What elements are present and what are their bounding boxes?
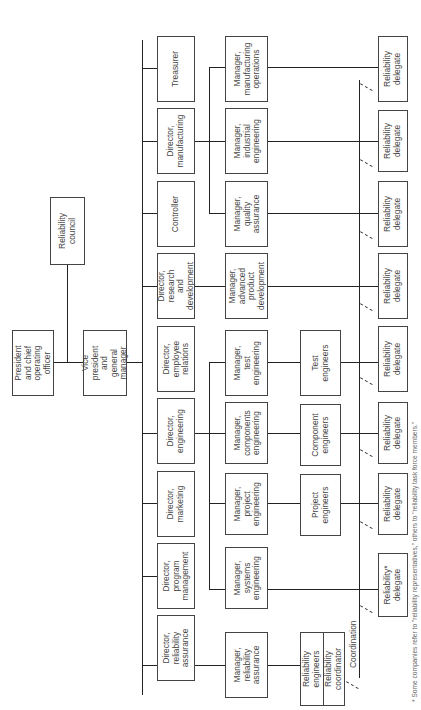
tick xyxy=(142,576,157,577)
reliability-unit-box: Reliability engineers Reliability coordi… xyxy=(300,632,345,706)
director-box-2: Controller xyxy=(157,181,195,247)
manager-label: Manager, components engineering xyxy=(232,410,261,456)
reliability-engineers-cell: Reliability engineers xyxy=(301,633,323,705)
reliability-coordinator-cell: Reliability coordinator xyxy=(323,633,345,705)
tick xyxy=(142,665,157,666)
dashed-link xyxy=(360,83,373,91)
delegate-label: Reliability delegate xyxy=(383,123,402,159)
manager-box-5: Manager, components engineering xyxy=(225,402,268,464)
director-label: Director, engineering xyxy=(166,409,185,453)
tick xyxy=(209,433,225,434)
director-label: Controller xyxy=(171,196,181,232)
delegate-label: Reliability delegate xyxy=(383,415,402,451)
manager-label: Manager, manufacturing operations xyxy=(232,42,261,95)
director-label: Director, marketing xyxy=(166,486,185,523)
director-label: Director, program management xyxy=(162,552,191,601)
tick xyxy=(209,213,225,214)
manager-label: Manager, quality assurance xyxy=(232,195,261,234)
manager-link-7 xyxy=(268,589,378,590)
tick xyxy=(142,68,157,69)
president-label: President and chief operating officer xyxy=(14,345,52,380)
dashed-link xyxy=(360,231,373,239)
tick xyxy=(195,665,225,666)
dashed-link xyxy=(360,159,373,167)
director-label: Director, reliability assurance xyxy=(162,629,191,668)
tick xyxy=(209,67,225,68)
president-box: President and chief operating officer xyxy=(12,330,54,396)
vice-president-box: Vice president and general manager xyxy=(83,330,127,396)
connector-vp-bus xyxy=(127,362,142,363)
manager-box-6: Manager, project engineering xyxy=(225,473,268,535)
manager-label: Manager, systems engineering xyxy=(232,556,261,600)
delegate-label: Reliability delegate xyxy=(383,51,402,87)
manager-link-0 xyxy=(268,67,378,68)
coordination-label: Coordination xyxy=(348,621,358,669)
manager-label: Manager, test engineering xyxy=(232,341,261,385)
engineers-box-0: Test engineers xyxy=(300,330,341,396)
manager-link-2 xyxy=(268,213,378,214)
footnote: * Some companies refer to "reliability r… xyxy=(411,422,418,702)
manager-link-5 xyxy=(268,433,300,434)
engineers-box-2: Project engineers xyxy=(300,474,341,536)
director-box-7: Director, program management xyxy=(157,543,195,609)
manager-box-4: Manager, test engineering xyxy=(225,330,268,396)
manager-label: Manager, reliability assurance xyxy=(232,646,261,685)
coordination-bus xyxy=(359,80,360,678)
director-box-5: Director, engineering xyxy=(157,398,195,464)
director-label: Treasurer xyxy=(171,51,181,87)
manager-label: Manager, advanced product development xyxy=(227,262,265,310)
delegate-label: Reliability* delegate xyxy=(383,565,402,604)
eng-bus-link xyxy=(195,433,209,434)
dashed-link xyxy=(360,303,373,311)
manager-link-6 xyxy=(268,503,300,504)
delegate-box-6: Reliability delegate xyxy=(378,473,408,535)
connector-council xyxy=(67,265,68,362)
manager-label: Manager, industrial engineering xyxy=(232,119,261,163)
manager-link-4 xyxy=(268,362,300,363)
dashed-link xyxy=(360,377,373,385)
director-box-6: Director, marketing xyxy=(157,471,195,537)
eng-bus xyxy=(209,362,210,590)
director-box-0: Treasurer xyxy=(157,36,195,102)
director-label: Director, employee relations xyxy=(162,341,191,377)
reliability-council-box: Reliability council xyxy=(50,197,85,265)
connector-president-vp xyxy=(54,362,83,363)
tick xyxy=(209,141,225,142)
manager-box-1: Manager, industrial engineering xyxy=(225,108,268,174)
engineers-label: Component engineers xyxy=(311,413,330,456)
tick xyxy=(209,589,225,590)
dashed-link xyxy=(360,605,373,613)
director-box-1: Director, manufacturing xyxy=(157,108,195,174)
manager-box-0: Manager, manufacturing operations xyxy=(225,36,268,102)
manager-link-1 xyxy=(268,141,378,142)
manager-link-3 xyxy=(268,286,378,287)
delegate-box-3: Reliability delegate xyxy=(378,253,408,319)
delegate-label: Reliability delegate xyxy=(383,196,402,232)
director-label: Director, research and development xyxy=(157,262,195,310)
reliability-coordinator-label: Reliability coordinator xyxy=(324,648,343,690)
delegate-box-1: Reliability delegate xyxy=(378,110,408,172)
engineers-box-1: Component engineers xyxy=(300,404,341,466)
director-box-8: Director, reliability assurance xyxy=(157,615,195,681)
delegate-box-0: Reliability delegate xyxy=(378,36,408,102)
tick xyxy=(142,141,157,142)
dashed-link xyxy=(360,521,373,529)
director-box-3: Director, research and development xyxy=(157,253,195,319)
mfg-bus-link xyxy=(195,141,209,142)
delegate-box-4: Reliability delegate xyxy=(378,326,408,392)
reliability-engineers-label: Reliability engineers xyxy=(302,651,321,688)
manager-label: Manager, project engineering xyxy=(232,482,261,526)
delegate-box-5: Reliability delegate xyxy=(378,402,408,464)
tick xyxy=(195,286,225,287)
tick xyxy=(142,286,157,287)
engineers-label: Test engineers xyxy=(311,345,330,382)
vice-president-label: Vice president and general manager xyxy=(81,346,129,380)
tick xyxy=(142,503,157,504)
delegate-label: Reliability delegate xyxy=(383,341,402,377)
delegate-box-7: Reliability* delegate xyxy=(378,553,408,617)
delegate-label: Reliability delegate xyxy=(383,268,402,304)
engineers-label: Project engineers xyxy=(311,487,330,524)
manager-link-8 xyxy=(268,665,300,666)
tick xyxy=(209,503,225,504)
tick xyxy=(142,213,157,214)
